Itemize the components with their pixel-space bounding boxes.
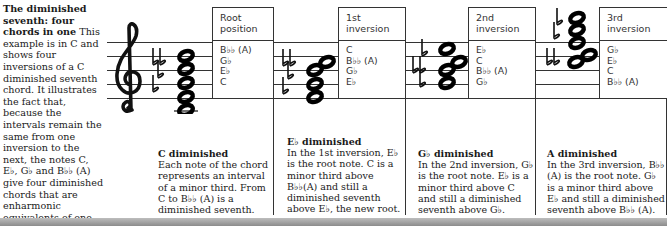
bottom-border — [0, 218, 667, 226]
label-box-root-position: Root position B♭♭ (A) G♭ E♭ C — [212, 7, 274, 99]
chord-root-position — [150, 30, 210, 114]
caption-eb-diminished: E♭ diminished In the 1st inversion, E♭ i… — [287, 136, 403, 214]
chord-3rd-inversion — [545, 2, 605, 82]
caption-title: C diminished — [158, 148, 272, 159]
flat-icon — [283, 49, 295, 94]
chord-2nd-inversion — [410, 36, 470, 98]
label-box-3rd-inversion: 3rd inversion G♭ E♭ C B♭♭ (A) — [599, 7, 667, 99]
column-divider — [405, 98, 406, 215]
note-list: E♭ C B♭♭ (A) G♭ — [476, 45, 508, 87]
flat-icon — [153, 48, 165, 92]
whole-note-icon — [178, 103, 194, 114]
whole-note-icon — [439, 42, 467, 89]
note-name: E♭ — [346, 77, 378, 88]
caption-text: In the 2nd inversion, G♭ is the root not… — [418, 159, 533, 215]
caption-title: G♭ diminished — [418, 148, 534, 159]
whole-note-icon — [178, 49, 194, 103]
caption-c-diminished: C diminished Each note of the chord repr… — [158, 148, 272, 215]
whole-note-icon — [307, 55, 335, 103]
note-list: G♭ E♭ C B♭♭ (A) — [607, 45, 639, 87]
note-list: C B♭♭ (A) G♭ E♭ — [346, 45, 378, 87]
box-heading: 1st inversion — [339, 8, 405, 41]
intro-body: This example is in C and shows four inve… — [3, 26, 103, 226]
label-box-2nd-inversion: 2nd inversion E♭ C B♭♭ (A) G♭ — [468, 7, 536, 99]
intro-text: The diminished seventh: four chords in o… — [3, 3, 105, 226]
note-name: E♭ — [476, 45, 508, 56]
heading-line: 1st — [346, 12, 405, 23]
intro-title: The diminished seventh: four chords in o… — [3, 3, 87, 37]
caption-a-diminished: A diminished In the 3rd inversion, B♭♭ (… — [547, 148, 665, 215]
label-box-1st-inversion: 1st inversion C B♭♭ (A) G♭ E♭ — [338, 7, 406, 99]
flat-icon — [547, 8, 562, 65]
note-name: C — [346, 45, 378, 56]
box-heading: 2nd inversion — [469, 8, 535, 41]
caption-text: In the 3rd inversion, B♭♭ (A) is the roo… — [547, 159, 665, 215]
box-heading: 3rd inversion — [600, 8, 667, 41]
note-name: B♭♭ (A) — [607, 77, 639, 88]
heading-line: inversion — [346, 23, 405, 34]
note-name: G♭ — [607, 45, 639, 56]
heading-line: 2nd — [476, 12, 535, 23]
heading-line: inversion — [476, 23, 535, 34]
heading-line: inversion — [607, 23, 667, 34]
caption-title: E♭ diminished — [287, 136, 403, 147]
note-list: B♭♭ (A) G♭ E♭ C — [220, 45, 252, 87]
chord-1st-inversion — [280, 44, 340, 106]
caption-title: A diminished — [547, 148, 665, 159]
note-name: G♭ — [476, 77, 508, 88]
column-divider — [273, 98, 274, 215]
flat-icon — [413, 39, 427, 87]
heading-line: Root — [220, 12, 273, 23]
column-divider — [535, 98, 536, 215]
box-heading: Root position — [213, 8, 273, 41]
note-name: B♭♭ (A) — [220, 45, 252, 56]
whole-note-icon — [568, 11, 597, 68]
caption-gb-diminished: G♭ diminished In the 2nd inversion, G♭ i… — [418, 148, 534, 215]
caption-text: In the 1st inversion, E♭ is the root not… — [287, 147, 400, 214]
caption-text: Each note of the chord represents an int… — [158, 159, 268, 215]
heading-line: 3rd — [607, 12, 667, 23]
heading-line: position — [220, 23, 273, 34]
note-name: C — [220, 77, 252, 88]
treble-clef-icon — [112, 22, 148, 116]
